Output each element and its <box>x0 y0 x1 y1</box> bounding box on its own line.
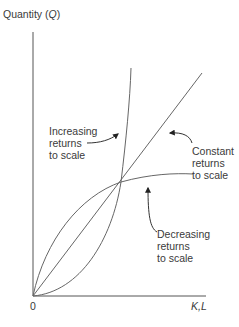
decreasing-arrow <box>148 188 157 232</box>
decreasing-returns-label: Decreasing returns to scale <box>157 228 210 264</box>
increasing-returns-curve <box>33 68 131 296</box>
constant-arrow <box>170 133 192 143</box>
origin-label: 0 <box>30 300 36 312</box>
x-axis-label: K,L <box>191 300 207 312</box>
constant-returns-label: Constant returns to scale <box>192 145 234 181</box>
y-axis-label: Quantity (Q) <box>3 8 60 20</box>
increasing-returns-label: Increasing returns to scale <box>49 125 97 161</box>
